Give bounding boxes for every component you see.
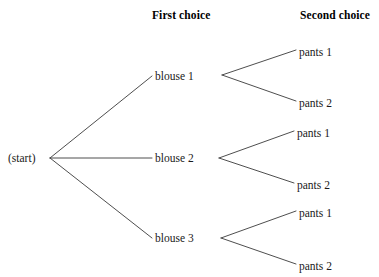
edge-blouse-to-pants-6 xyxy=(221,238,296,264)
edge-blouse-to-pants-1 xyxy=(222,50,296,75)
node-blouse1-pants-2: pants 2 xyxy=(299,97,332,109)
node-blouse-3: blouse 3 xyxy=(155,232,194,244)
tree-diagram-canvas: First choice Second choice (start) blous… xyxy=(0,0,379,277)
edge-start-to-blouse-3 xyxy=(50,158,152,238)
node-blouse-1: blouse 1 xyxy=(155,70,194,82)
node-blouse3-pants-2: pants 2 xyxy=(299,260,332,272)
edge-blouse-to-pants-2 xyxy=(222,75,296,101)
node-blouse-2: blouse 2 xyxy=(155,152,194,164)
node-blouse3-pants-1: pants 1 xyxy=(299,207,332,219)
node-blouse1-pants-1: pants 1 xyxy=(299,46,332,58)
edge-blouse-to-pants-5 xyxy=(221,211,296,238)
node-start: (start) xyxy=(8,152,35,164)
edge-group-blouse-to-pants xyxy=(219,50,296,264)
edge-start-to-blouse-1 xyxy=(50,76,152,158)
column-header-second-choice: Second choice xyxy=(300,9,370,21)
edge-blouse-to-pants-3 xyxy=(219,131,294,158)
node-blouse2-pants-1: pants 1 xyxy=(297,127,330,139)
node-blouse2-pants-2: pants 2 xyxy=(297,179,330,191)
edge-group-start-to-blouse xyxy=(50,76,152,238)
column-header-first-choice: First choice xyxy=(152,9,210,21)
edge-blouse-to-pants-4 xyxy=(219,158,294,183)
